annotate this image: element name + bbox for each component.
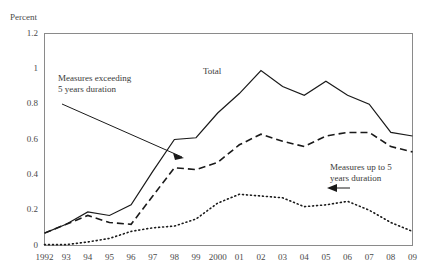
plot-area [0,0,429,275]
annotation-exceeding-line-2: 5 years duration [58,84,131,95]
annotation-up-to-5-years: Measures up to 5 years duration [330,162,392,184]
chart-container: Percent 00.20.40.60.811.2 19929394959697… [0,0,429,275]
series-label-total: Total [203,66,221,76]
annotation-upto-line-1: Measures up to 5 [330,162,392,173]
annotation-exceeding-5-years: Measures exceeding 5 years duration [58,73,131,95]
annotation-upto-line-2: years duration [330,173,392,184]
annotation-exceeding-line-1: Measures exceeding [58,73,131,84]
annotation-arrow-up-to-5 [327,184,350,192]
